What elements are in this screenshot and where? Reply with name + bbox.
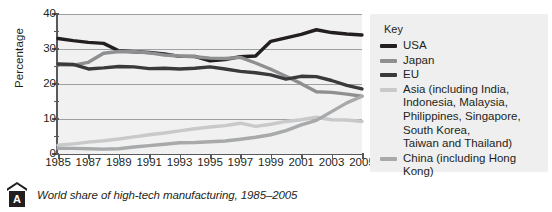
legend-item-label: EU xyxy=(403,68,419,82)
legend-item[interactable]: China (including Hong Kong) xyxy=(380,152,542,179)
legend-item-label: Japan xyxy=(403,54,434,68)
y-tick-label: 10 xyxy=(28,113,56,125)
legend-item[interactable]: USA xyxy=(380,39,542,53)
figure-root: Percentage 010203040 1985198719891991199… xyxy=(0,0,552,212)
legend-box: Key USAJapanEUAsia (including India, Ind… xyxy=(370,14,548,172)
figure-marker-badge: A xyxy=(4,182,30,208)
legend-item[interactable]: Japan xyxy=(380,54,542,68)
figure-caption-row: A World share of high-tech manufacturing… xyxy=(4,182,297,208)
series-lines xyxy=(58,14,362,154)
plot-area: 010203040 xyxy=(58,14,362,154)
y-axis-title: Percentage xyxy=(13,3,25,113)
legend-swatch xyxy=(380,73,397,77)
series-line xyxy=(58,51,362,96)
legend-item[interactable]: EU xyxy=(380,68,542,82)
legend-swatch xyxy=(380,88,397,92)
legend-item-label: USA xyxy=(403,39,427,53)
series-line xyxy=(58,64,362,89)
chevron-up-icon xyxy=(7,182,27,191)
legend-item-label: China (including Hong Kong) xyxy=(403,152,542,179)
legend-swatch xyxy=(380,44,397,48)
badge-letter: A xyxy=(9,191,25,207)
y-tick-label: 40 xyxy=(28,8,56,20)
line-chart: Percentage 010203040 1985198719891991199… xyxy=(0,0,380,180)
y-tick-label: 30 xyxy=(28,43,56,55)
y-tick-label: 20 xyxy=(28,78,56,90)
legend-title: Key xyxy=(384,23,403,35)
legend-item[interactable]: Asia (including India, Indonesia, Malays… xyxy=(380,83,542,151)
legend-swatch xyxy=(380,59,397,63)
figure-caption: World share of high-tech manufacturing, … xyxy=(37,189,297,201)
legend-items: USAJapanEUAsia (including India, Indones… xyxy=(380,39,542,180)
legend-swatch xyxy=(380,157,397,161)
legend-item-label: Asia (including India, Indonesia, Malays… xyxy=(403,83,521,151)
series-line xyxy=(58,30,362,61)
